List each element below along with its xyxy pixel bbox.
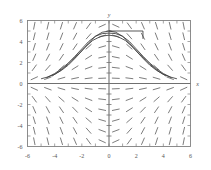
slope-mark xyxy=(169,138,171,145)
y-axis-label: y xyxy=(107,12,111,18)
slope-mark xyxy=(140,88,147,89)
slope-mark xyxy=(46,65,51,70)
slope-mark xyxy=(112,119,119,121)
slope-mark xyxy=(33,127,35,134)
slope-mark xyxy=(126,55,132,59)
slope-mark xyxy=(183,117,185,124)
slope-mark xyxy=(73,44,77,50)
slope-mark xyxy=(34,138,35,145)
slope-mark xyxy=(99,109,106,110)
x-tick-label: 4 xyxy=(162,153,165,159)
slope-mark xyxy=(155,107,159,113)
slope-mark xyxy=(99,119,106,121)
slope-mark xyxy=(112,109,119,110)
slope-mark xyxy=(33,43,35,50)
slope-mark xyxy=(169,33,171,40)
slope-mark xyxy=(32,96,36,102)
slope-mark xyxy=(74,23,77,29)
slope-mark xyxy=(127,118,132,123)
slope-mark xyxy=(153,77,160,79)
slope-mark xyxy=(87,138,91,144)
slope-mark xyxy=(99,67,106,68)
slope-mark xyxy=(99,140,105,143)
slope-mark xyxy=(58,88,65,90)
slope-mark xyxy=(33,33,35,40)
slope-mark xyxy=(72,78,79,79)
slope-mark xyxy=(31,77,37,80)
slope-mark xyxy=(141,44,145,50)
slope-mark xyxy=(99,99,106,100)
y-tick-label: 0 xyxy=(20,81,23,87)
slope-mark xyxy=(33,117,35,124)
slope-mark xyxy=(73,33,76,39)
slope-field-figure: -6-4-20246-6-4-20246yx xyxy=(0,0,211,170)
slope-mark xyxy=(155,54,159,60)
slope-mark xyxy=(140,66,146,70)
slope-mark xyxy=(169,127,171,134)
slope-mark xyxy=(156,138,158,145)
slope-mark xyxy=(60,33,62,40)
slope-mark xyxy=(46,54,49,60)
slope-mark xyxy=(142,23,145,29)
slope-mark xyxy=(99,46,106,48)
slope-mark xyxy=(87,23,91,29)
slope-mark xyxy=(155,127,157,134)
slope-mark xyxy=(31,87,37,90)
y-tick-label: 2 xyxy=(20,60,23,66)
slope-mark xyxy=(45,88,52,90)
slope-mark xyxy=(99,57,106,58)
slope-mark xyxy=(182,65,186,71)
slope-mark xyxy=(60,138,62,145)
slope-mark xyxy=(167,88,174,90)
plot-canvas: -6-4-20246-6-4-20246yx xyxy=(0,0,211,170)
slope-mark xyxy=(59,97,64,102)
slope-mark xyxy=(47,33,49,40)
slope-mark xyxy=(183,127,185,134)
slope-mark xyxy=(168,107,171,113)
slope-mark xyxy=(127,138,131,144)
slope-mark xyxy=(155,33,157,40)
x-tick-label: -4 xyxy=(52,153,57,159)
slope-mark xyxy=(155,117,158,123)
x-tick-label: -2 xyxy=(79,153,84,159)
slope-mark xyxy=(141,128,144,134)
slope-mark xyxy=(60,44,63,50)
slope-mark xyxy=(126,108,132,112)
slope-mark xyxy=(183,43,185,50)
slope-mark xyxy=(72,66,78,70)
slope-mark xyxy=(168,54,171,60)
y-tick-label: -6 xyxy=(18,144,23,150)
slope-mark xyxy=(33,107,36,113)
slope-mark xyxy=(141,117,145,123)
slope-mark xyxy=(74,138,77,144)
x-tick-label: 2 xyxy=(135,153,138,159)
slope-mark xyxy=(183,33,185,40)
slope-mark xyxy=(127,34,132,39)
slope-mark xyxy=(182,54,185,60)
slope-mark xyxy=(113,24,119,27)
slope-mark xyxy=(59,54,63,60)
slope-mark xyxy=(126,88,133,89)
slope-mark xyxy=(47,127,49,134)
y-tick-label: 4 xyxy=(20,39,23,45)
slope-mark xyxy=(86,34,91,39)
slope-mark xyxy=(183,138,184,145)
slope-mark xyxy=(181,77,187,80)
slope-mark xyxy=(112,67,119,68)
slope-mark xyxy=(126,98,133,100)
slope-mark xyxy=(59,107,63,113)
slope-mark xyxy=(72,88,79,89)
x-axis-label: x xyxy=(195,81,199,87)
slope-mark xyxy=(46,107,49,113)
slope-mark xyxy=(113,130,120,132)
slope-mark xyxy=(113,140,119,143)
slope-mark xyxy=(32,65,36,71)
slope-mark xyxy=(58,77,65,79)
x-tick-label: 6 xyxy=(189,153,192,159)
slope-mark xyxy=(168,97,173,102)
slope-mark xyxy=(140,97,146,101)
slope-mark xyxy=(60,22,62,29)
slope-mark xyxy=(86,128,91,133)
slope-mark xyxy=(127,128,132,133)
slope-mark xyxy=(85,98,92,100)
